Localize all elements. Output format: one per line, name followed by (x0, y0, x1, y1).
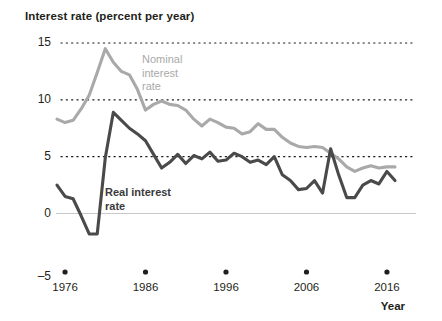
interest-rate-chart: Interest rate (percent per year) 151050–… (0, 0, 442, 321)
x-tick-dot (62, 269, 67, 274)
x-tick-markers (62, 269, 389, 274)
series-label-real-line: rate (105, 200, 171, 214)
x-tick-dot (384, 269, 389, 274)
x-tick-label: 1986 (123, 281, 169, 293)
y-tick-label: 0 (25, 206, 51, 220)
series-label-real: Real interestrate (105, 186, 171, 213)
series-label-nominal-line: interest (142, 67, 182, 81)
y-tick-label: 10 (25, 92, 51, 106)
series-label-nominal: Nominalinterestrate (142, 53, 182, 94)
series-label-nominal-line: rate (142, 80, 182, 94)
x-tick-label: 2016 (364, 281, 410, 293)
y-tick-label: 15 (25, 35, 51, 49)
x-tick-dot (304, 269, 309, 274)
x-tick-dot (143, 269, 148, 274)
series-line-real (57, 112, 395, 234)
plot-area (0, 0, 442, 321)
series-label-real-line: Real interest (105, 186, 171, 200)
x-tick-label: 1976 (42, 281, 88, 293)
x-tick-label: 2006 (283, 281, 329, 293)
y-tick-label: 5 (25, 149, 51, 163)
x-axis-title: Year (370, 300, 416, 312)
gridlines (61, 43, 416, 157)
series-label-nominal-line: Nominal (142, 53, 182, 67)
x-tick-dot (223, 269, 228, 274)
x-tick-label: 1996 (203, 281, 249, 293)
